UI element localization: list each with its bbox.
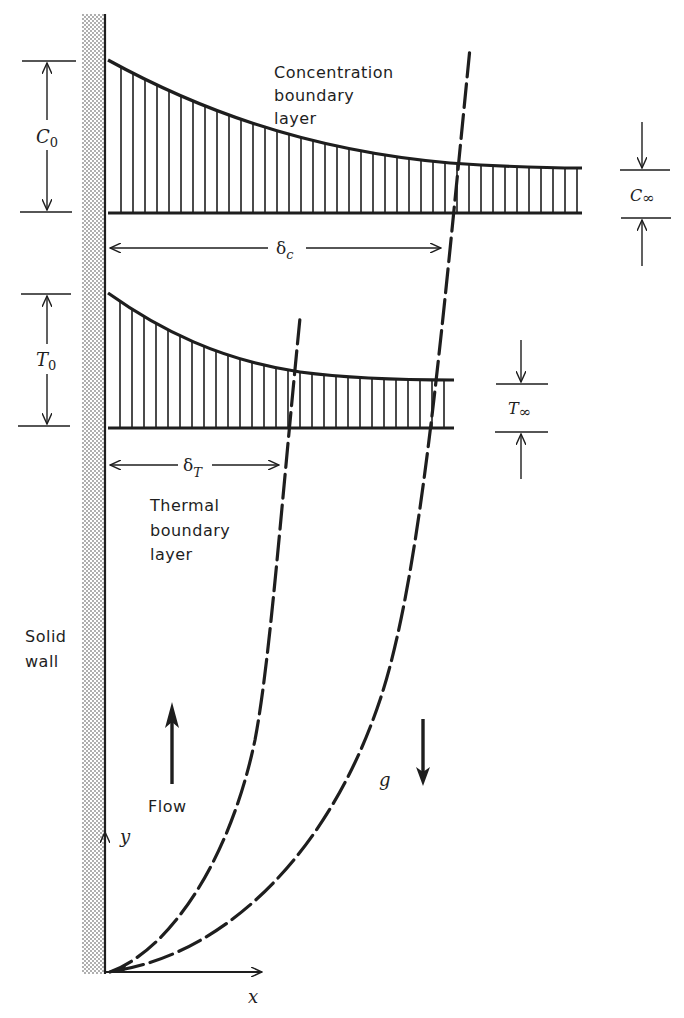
solid-wall-label: Solid wall [25,627,67,671]
x-axis-label: x [248,986,258,1007]
svg-text:Concentration: Concentration [274,63,394,82]
c0-label: C0 [36,126,58,150]
svg-text:boundary: boundary [274,86,354,105]
flow-arrow: Flow [148,702,187,816]
thermal-boundary-edge-curve [110,318,300,972]
svg-text:Solid: Solid [25,627,67,646]
t-inf-dimension: T∞ [495,340,548,479]
concentration-profile [108,60,582,213]
solid-wall [82,14,105,974]
y-axis-label: y [119,826,131,847]
c-inf-label: C∞ [630,186,655,207]
svg-text:boundary: boundary [150,521,230,540]
flow-label: Flow [148,797,187,816]
c-inf-dimension: C∞ [620,122,671,266]
concentration-boundary-layer-label: Concentration boundary layer [274,63,394,128]
t-inf-label: T∞ [508,399,531,421]
boundary-layer-diagram: C0 δc C∞ Concentration boundary layer T0 [0,0,684,1018]
t0-dimension: T0 [18,294,71,426]
delta-c-dimension: δc [110,238,441,262]
gravity-label: g [379,769,391,790]
svg-text:Thermal: Thermal [149,496,219,515]
delta-t-dimension: δT [110,455,279,480]
thermal-profile [108,293,454,428]
svg-text:wall: wall [25,652,59,671]
c0-dimension: C0 [20,61,76,212]
svg-text:layer: layer [150,545,193,564]
delta-c-label: δc [276,238,294,262]
svg-text:layer: layer [274,109,317,128]
thermal-boundary-layer-label: Thermal boundary layer [149,496,230,564]
delta-t-label: δT [183,455,203,480]
gravity-arrow: g [379,719,430,790]
t0-label: T0 [36,349,56,373]
